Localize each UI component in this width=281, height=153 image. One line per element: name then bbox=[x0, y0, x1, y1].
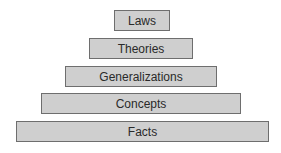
tier-label: Generalizations bbox=[99, 70, 182, 84]
tier-label: Laws bbox=[128, 14, 156, 28]
tier-theories: Theories bbox=[89, 38, 193, 59]
tier-generalizations: Generalizations bbox=[65, 66, 217, 87]
tier-concepts: Concepts bbox=[41, 93, 241, 114]
tier-label: Facts bbox=[128, 125, 157, 139]
tier-facts: Facts bbox=[16, 121, 269, 142]
tier-label: Concepts bbox=[116, 97, 167, 111]
tier-label: Theories bbox=[118, 42, 165, 56]
tier-laws: Laws bbox=[114, 10, 170, 31]
